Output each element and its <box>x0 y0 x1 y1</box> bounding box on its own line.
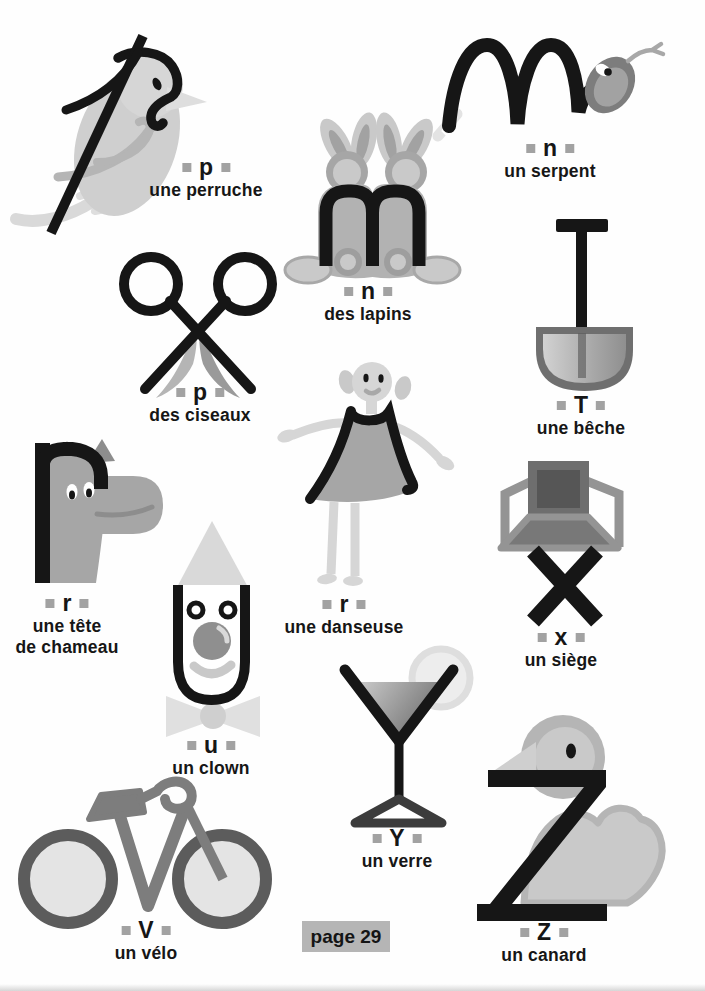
illustrations-canvas <box>0 0 705 991</box>
item-label-ciseaux: p des ciseaux <box>149 381 250 425</box>
page-number-label: page 29 <box>311 926 382 948</box>
letter-marker-square <box>46 599 55 608</box>
item-label-velo: V un vélo <box>115 919 178 963</box>
item-letter: T <box>574 394 588 417</box>
spade-illustration <box>536 219 633 391</box>
item-caption: des ciseaux <box>149 407 250 425</box>
item-letter: n <box>361 280 375 303</box>
item-label-lapins: n des lapins <box>324 280 412 324</box>
dancer-illustration <box>276 362 457 586</box>
item-label-beche: T une bêche <box>537 394 625 438</box>
item-caption: un vélo <box>115 945 178 963</box>
item-letter: V <box>138 919 153 942</box>
item-label-chameau: r une tête de chameau <box>15 592 118 657</box>
letter-row: n <box>504 137 595 160</box>
letter-marker-square <box>383 287 392 296</box>
letter-marker-square <box>226 741 235 750</box>
letter-row: V <box>115 919 178 942</box>
letter-marker-square <box>162 926 171 935</box>
item-letter: u <box>204 734 218 757</box>
item-caption: un clown <box>172 760 249 778</box>
letter-marker-square <box>559 928 568 937</box>
item-caption-line2: de chameau <box>15 639 118 657</box>
item-label-serpent: n un serpent <box>504 137 595 181</box>
letter-row: p <box>149 156 262 179</box>
snake-illustration <box>438 44 663 137</box>
letter-marker-square <box>323 600 332 609</box>
item-letter: p <box>193 381 207 404</box>
item-letter: n <box>543 137 557 160</box>
item-caption: une perruche <box>149 182 262 200</box>
letter-row: r <box>284 593 403 616</box>
duck-illustration <box>477 715 662 921</box>
letter-marker-square <box>121 926 130 935</box>
letter-row: n <box>324 280 412 303</box>
letter-marker-square <box>565 144 574 153</box>
letter-row: p <box>149 381 250 404</box>
item-letter: r <box>340 593 349 616</box>
item-caption: un verre <box>362 853 433 871</box>
item-letter: r <box>63 592 72 615</box>
page-number-box: page 29 <box>302 921 390 952</box>
martini-glass-illustration <box>345 649 470 823</box>
scissors-illustration <box>124 257 272 398</box>
letter-marker-square <box>575 633 584 642</box>
scan-edge-shadow <box>0 984 705 991</box>
chair-illustration <box>501 461 619 621</box>
letter-row: x <box>525 626 598 649</box>
item-caption: une tête <box>15 618 118 636</box>
item-caption: un serpent <box>504 163 595 181</box>
item-label-perruche: p une perruche <box>149 156 262 200</box>
item-letter: x <box>555 626 568 649</box>
item-label-danseuse: r une danseuse <box>284 593 403 637</box>
parakeet-illustration <box>16 36 207 233</box>
letter-marker-square <box>520 928 529 937</box>
item-caption: une danseuse <box>284 619 403 637</box>
letter-marker-square <box>596 401 605 410</box>
letter-marker-square <box>187 741 196 750</box>
item-letter: Z <box>537 921 551 944</box>
item-caption: une bêche <box>537 420 625 438</box>
item-label-clown: u un clown <box>172 734 249 778</box>
letter-marker-square <box>413 834 422 843</box>
item-caption: un canard <box>501 947 586 965</box>
letter-marker-square <box>215 388 224 397</box>
letter-row: r <box>15 592 118 615</box>
item-caption: un siège <box>525 652 598 670</box>
letter-row: u <box>172 734 249 757</box>
letter-marker-square <box>356 600 365 609</box>
letter-marker-square <box>344 287 353 296</box>
book-page: p une perruche n des lapins n un serpent… <box>0 0 705 991</box>
letter-marker-square <box>372 834 381 843</box>
item-label-verre: Y un verre <box>362 827 433 871</box>
item-caption: des lapins <box>324 306 412 324</box>
letter-row: Z <box>501 921 586 944</box>
item-label-siege: x un siège <box>525 626 598 670</box>
letter-marker-square <box>557 401 566 410</box>
item-letter: p <box>199 156 213 179</box>
camel-head-illustration <box>35 439 163 583</box>
letter-marker-square <box>182 163 191 172</box>
item-letter: Y <box>389 827 404 850</box>
letter-marker-square <box>176 388 185 397</box>
bicycle-illustration <box>24 782 266 923</box>
letter-row: Y <box>362 827 433 850</box>
letter-marker-square <box>526 144 535 153</box>
item-label-canard: Z un canard <box>501 921 586 965</box>
clown-illustration <box>166 521 260 737</box>
letter-row: T <box>537 394 625 417</box>
letter-marker-square <box>221 163 230 172</box>
letter-marker-square <box>538 633 547 642</box>
letter-marker-square <box>79 599 88 608</box>
